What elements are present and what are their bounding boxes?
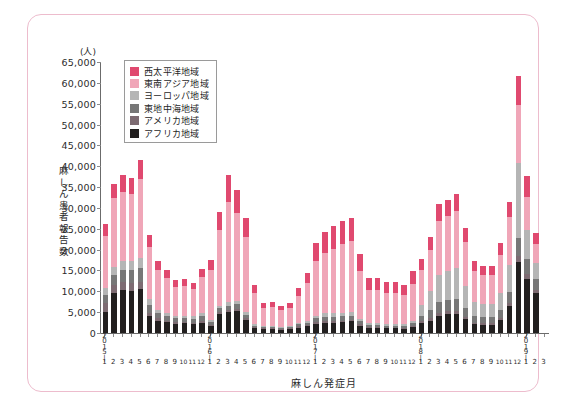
- y-axis-tick-label: 55,000: [62, 98, 96, 109]
- x-axis-tick: [113, 334, 114, 337]
- y-axis-tick-label: 60,000: [62, 77, 96, 88]
- bar-segment: [463, 242, 468, 286]
- x-axis-tick: [263, 334, 264, 337]
- bar-segment: [393, 293, 398, 324]
- bar-segment: [217, 230, 222, 305]
- bar-segment: [129, 283, 134, 291]
- x-axis-tick: [175, 334, 176, 337]
- bar-segment: [147, 247, 152, 299]
- bar-segment: [516, 76, 521, 105]
- bar: [147, 235, 152, 333]
- y-axis-tick-label: 0: [90, 328, 96, 339]
- bar-segment: [173, 280, 178, 287]
- bar-segment: [489, 275, 494, 304]
- bar-segment: [313, 261, 318, 315]
- bar-segment: [357, 326, 362, 334]
- bar-segment: [498, 243, 503, 255]
- chart-frame: (人) 麻しん患者報告数 05,00010,00015,00020,00025,…: [27, 14, 539, 392]
- bar-segment: [305, 326, 310, 333]
- bar-segment: [243, 218, 248, 237]
- bar-segment: [524, 197, 529, 230]
- bar-segment: [226, 202, 231, 302]
- x-axis-tick: [544, 334, 545, 337]
- bar-segment: [305, 283, 310, 321]
- x-axis-month-label: 3: [225, 358, 229, 366]
- bar-segment: [489, 304, 494, 317]
- bar-segment: [103, 295, 108, 303]
- x-axis-tick: [166, 334, 167, 337]
- bar: [384, 282, 389, 333]
- x-axis-tick: [183, 334, 184, 337]
- bar-segment: [226, 312, 231, 333]
- bar-segment: [120, 270, 125, 282]
- bar-segment: [111, 198, 116, 267]
- x-axis-month-label: 8: [374, 358, 378, 366]
- bar: [138, 160, 143, 333]
- bar-segment: [507, 217, 512, 265]
- bar-segment: [111, 293, 116, 333]
- x-axis-month-label: 3: [120, 358, 124, 366]
- bar-segment: [252, 293, 257, 324]
- x-axis-tick: [201, 334, 202, 337]
- x-axis-month-label: 2: [216, 358, 220, 366]
- bar-segment: [375, 328, 380, 333]
- x-axis-tick: [298, 334, 299, 337]
- x-axis-tick: [412, 334, 413, 337]
- bar-segment: [111, 184, 116, 199]
- bar-segment: [480, 275, 485, 304]
- x-axis-tick: [500, 334, 501, 337]
- x-axis-month-label: 8: [480, 358, 484, 366]
- bar-segment: [384, 293, 389, 324]
- legend-label: 西太平洋地域: [144, 65, 200, 78]
- bar-segment: [533, 279, 538, 289]
- x-axis-month-label: 12: [408, 358, 416, 365]
- bar-segment: [164, 322, 169, 333]
- bar-segment: [410, 284, 415, 322]
- x-axis-month-label: 10: [285, 358, 293, 365]
- y-axis-tick-label: 20,000: [62, 244, 96, 255]
- bar-segment: [445, 300, 450, 312]
- bar-segment: [401, 295, 406, 324]
- bar-segment: [182, 279, 187, 286]
- bar-segment: [498, 310, 503, 318]
- bar-segment: [436, 204, 441, 221]
- bar-segment: [129, 178, 134, 195]
- bar: [270, 302, 275, 333]
- bar: [419, 259, 424, 333]
- bar-segment: [445, 200, 450, 217]
- bar-segment: [428, 321, 433, 334]
- y-axis-tick-label: 65,000: [62, 57, 96, 68]
- bar-segment: [191, 283, 196, 290]
- bar-segment: [103, 224, 108, 237]
- y-axis-tick-label: 35,000: [62, 182, 96, 193]
- bar-segment: [436, 302, 441, 313]
- bar-segment: [208, 270, 213, 320]
- bar-segment: [261, 308, 266, 327]
- bar-segment: [419, 270, 424, 305]
- x-axis-month-label: 12: [303, 358, 311, 365]
- x-axis-month-label: 6: [251, 358, 255, 366]
- bar-segment: [454, 299, 459, 311]
- bar: [349, 218, 354, 333]
- bar-segment: [270, 307, 275, 326]
- bar-segment: [234, 190, 239, 213]
- bar-segment: [445, 216, 450, 270]
- bar-segment: [147, 316, 152, 333]
- bar: [287, 303, 292, 333]
- bar-segment: [278, 330, 283, 333]
- y-axis-tick: [97, 312, 101, 313]
- x-axis-tick: [324, 334, 325, 337]
- y-axis-tick: [97, 270, 101, 271]
- bar-segment: [357, 254, 362, 271]
- bar: [120, 175, 125, 333]
- x-axis-month-label: 5: [454, 358, 458, 366]
- x-axis-month-label: 8: [269, 358, 273, 366]
- y-axis-tick: [97, 187, 101, 188]
- bar: [393, 282, 398, 333]
- bar-segment: [498, 320, 503, 333]
- bar-segment: [516, 262, 521, 333]
- x-axis-tick: [517, 334, 518, 337]
- y-axis-tick-label: 25,000: [62, 223, 96, 234]
- x-axis-tick: [473, 334, 474, 337]
- bar-segment: [524, 259, 529, 274]
